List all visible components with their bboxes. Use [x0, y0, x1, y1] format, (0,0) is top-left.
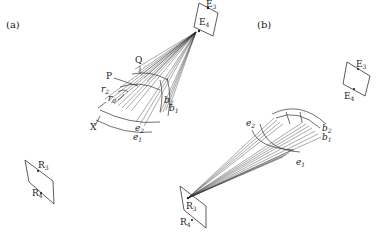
diagram-canvas: (a) E3 E4	[0, 0, 388, 242]
point-e4-a	[198, 30, 200, 32]
label-r4-a: R4	[32, 188, 43, 199]
point-e4-b	[353, 88, 355, 90]
label-x-a: X	[90, 122, 97, 132]
curve-b2-a	[160, 80, 162, 112]
point-r3-b	[187, 197, 189, 199]
panel-b-label: (b)	[257, 19, 271, 30]
label-r3-b: R3	[186, 201, 197, 212]
panel-a: (a) E3 E4	[6, 0, 218, 204]
panel-b: (b) E3 E4	[180, 19, 370, 228]
point-r3-a	[37, 170, 39, 172]
label-e4-a: E4	[199, 17, 210, 28]
label-b1-a: b1	[169, 103, 179, 114]
tick-b-2	[300, 112, 302, 122]
label-r3-a: R3	[38, 160, 49, 171]
label-r4-b: R4	[180, 217, 191, 228]
ray-bundles-a	[105, 32, 196, 126]
label-e2-b: e2	[246, 118, 255, 129]
label-e1-b: e1	[296, 157, 305, 168]
point-r4-b	[191, 219, 193, 221]
panel-a-label: (a)	[6, 19, 20, 30]
label-q-a: Q	[135, 55, 142, 65]
label-p-a: P	[106, 71, 112, 81]
label-e3-b: E3	[356, 59, 367, 70]
label-r0-a: r0	[108, 93, 116, 104]
curve-b1-b	[276, 115, 320, 128]
tick-x-a	[98, 102, 106, 108]
label-e3-a: E3	[206, 0, 217, 10]
curve-e2-a	[100, 110, 160, 123]
tick-b-1	[286, 112, 290, 124]
label-e4-b: E4	[344, 91, 355, 102]
pointer-p-a	[114, 78, 138, 86]
